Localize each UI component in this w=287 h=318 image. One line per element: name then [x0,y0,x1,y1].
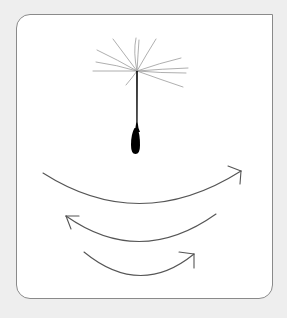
seed-body-icon [131,128,140,154]
arrow-right-small-icon [84,252,194,276]
arrow-right-icon [43,166,241,204]
dandelion-illustration [0,0,287,318]
arrow-left-icon [66,214,216,242]
seed-stem-icon [134,71,140,132]
pappus-icon [93,38,188,87]
